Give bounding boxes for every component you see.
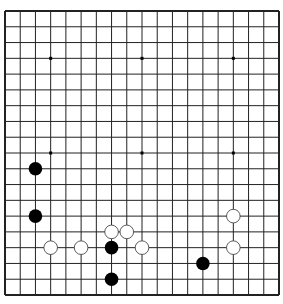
- white-stone[interactable]: [74, 241, 88, 255]
- black-stone[interactable]: [196, 257, 210, 271]
- black-stone[interactable]: [105, 241, 119, 255]
- star-point: [232, 152, 235, 155]
- white-stone[interactable]: [105, 225, 119, 239]
- white-stone[interactable]: [44, 241, 58, 255]
- white-stone[interactable]: [135, 241, 149, 255]
- star-point: [141, 152, 144, 155]
- black-stone[interactable]: [29, 162, 43, 176]
- black-stone[interactable]: [29, 209, 43, 223]
- star-point: [49, 57, 52, 60]
- star-point: [141, 57, 144, 60]
- go-board[interactable]: [0, 0, 283, 304]
- white-stone[interactable]: [120, 225, 134, 239]
- white-stone[interactable]: [227, 209, 241, 223]
- star-point: [232, 57, 235, 60]
- black-stone[interactable]: [105, 272, 119, 286]
- star-point: [49, 152, 52, 155]
- white-stone[interactable]: [227, 241, 241, 255]
